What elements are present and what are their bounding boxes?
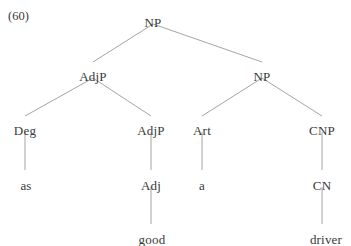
tree-leaf-leaf-good: good [139, 233, 166, 246]
tree-leaf-leaf-a: a [199, 179, 205, 193]
tree-edges-layer [0, 0, 351, 246]
tree-leaf-leaf-as: as [20, 179, 31, 193]
tree-node-adjp-1: AdjP [79, 70, 107, 84]
tree-node-cn: CN [313, 179, 331, 193]
tree-node-np-root: NP [144, 16, 161, 30]
edges-group [25, 24, 322, 224]
tree-node-deg: Deg [14, 124, 36, 138]
tree-node-cnp: CNP [309, 124, 335, 138]
tree-node-adjp-2: AdjP [137, 124, 165, 138]
tree-edge [262, 78, 322, 116]
tree-leaf-leaf-driver: driver [310, 233, 342, 246]
tree-edge [153, 24, 262, 62]
syntax-tree-figure: (60) NPAdjPNPDegAdjPArtCNPAdjCNasagooddr… [0, 0, 351, 246]
tree-node-adj: Adj [141, 179, 161, 193]
tree-node-art: Art [193, 124, 211, 138]
tree-node-np-2: NP [253, 70, 270, 84]
